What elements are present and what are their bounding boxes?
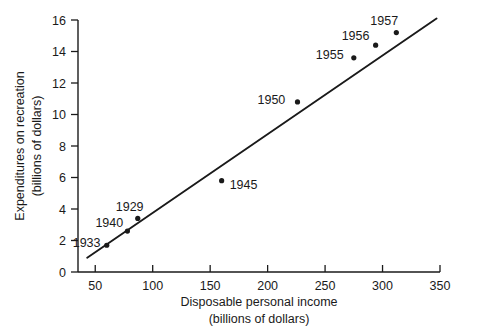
data-point-label-1955: 1955 (316, 48, 344, 62)
y-axis-title-main: Expenditures on recreation (13, 71, 27, 220)
data-point-1940 (125, 228, 130, 233)
y-tick-label: 8 (59, 140, 66, 154)
data-point-label-1950: 1950 (257, 93, 285, 107)
y-axis-title-units: (billions of dollars) (30, 96, 44, 197)
x-axis: 50100150200250300350 (78, 265, 450, 293)
data-point-1957 (394, 30, 399, 35)
y-tick-label: 14 (52, 45, 66, 59)
y-tick-label: 16 (52, 14, 66, 28)
y-tick-label: 12 (52, 77, 66, 91)
x-axis-ticks: 50100150200250300350 (88, 265, 450, 293)
x-tick-label: 200 (257, 279, 278, 293)
x-tick-label: 100 (142, 279, 163, 293)
y-tick-label: 6 (59, 171, 66, 185)
data-point-label-1929: 1929 (116, 200, 144, 214)
y-tick-label: 10 (52, 108, 66, 122)
y-tick-label: 0 (59, 266, 66, 280)
data-points: 19331940192919451950195519561957 (73, 14, 399, 250)
x-axis-title-main: Disposable personal income (180, 295, 337, 309)
scatter-chart: 0246810121416 50100150200250300350 19331… (0, 0, 479, 333)
data-point-label-1940: 1940 (95, 216, 123, 230)
data-point-1950 (295, 99, 300, 104)
x-axis-title: Disposable personal income (billions of … (180, 295, 337, 326)
y-tick-label: 4 (59, 203, 66, 217)
x-axis-title-units: (billions of dollars) (209, 312, 310, 326)
x-tick-label: 50 (88, 279, 102, 293)
data-point-1929 (135, 216, 140, 221)
y-tick-label: 2 (59, 234, 66, 248)
data-point-label-1945: 1945 (230, 178, 258, 192)
regression-line-segment (87, 18, 436, 257)
chart-canvas: 0246810121416 50100150200250300350 19331… (0, 0, 479, 333)
x-tick-label: 150 (200, 279, 221, 293)
data-point-1933 (104, 243, 109, 248)
data-point-label-1933: 1933 (73, 236, 101, 250)
data-point-1955 (351, 55, 356, 60)
x-tick-label: 300 (372, 279, 393, 293)
x-tick-label: 250 (315, 279, 336, 293)
data-point-1945 (219, 178, 224, 183)
y-axis-title: Expenditures on recreation (billions of … (13, 71, 44, 220)
regression-line (87, 18, 436, 257)
x-tick-label: 350 (430, 279, 451, 293)
data-point-label-1956: 1956 (342, 29, 370, 43)
data-point-1956 (373, 43, 378, 48)
data-point-label-1957: 1957 (370, 14, 398, 28)
